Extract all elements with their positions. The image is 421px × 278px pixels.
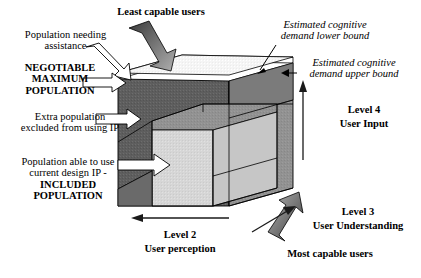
label-population-needing-assistance-line1: Population needing	[8, 29, 123, 40]
label-extra-population-excluded: Extra population excluded from using IP	[4, 111, 136, 134]
label-level4-sub: User Input	[318, 117, 410, 131]
label-upper-line2: demand upper bound	[288, 68, 420, 79]
label-least-capable-users: Least capable users	[86, 6, 236, 17]
label-able-line4: POPULATION	[4, 190, 132, 201]
label-lower-line2: demand lower bound	[257, 30, 393, 41]
label-level2: Level 2 User perception	[118, 228, 242, 255]
label-upper-line1: Estimated cognitive	[288, 57, 420, 68]
label-most-capable-users: Most capable users	[255, 248, 405, 259]
cube-inner-block	[152, 104, 277, 206]
label-negotiable-line2: MAXIMUM	[8, 73, 112, 84]
label-level2-title: Level 2	[118, 228, 242, 242]
label-level3-sub: User Understanding	[296, 219, 420, 233]
label-included-population: Population able to use current design IP…	[4, 156, 132, 201]
label-level2-sub: User perception	[118, 242, 242, 256]
diagram-canvas: Least capable users Population needing a…	[0, 0, 421, 278]
label-negotiable-line3: POPULATION	[8, 85, 112, 96]
label-level4-title: Level 4	[318, 103, 410, 117]
level2-axis-arrow	[131, 214, 229, 222]
label-level3: Level 3 User Understanding	[296, 205, 420, 232]
label-able-line3: INCLUDED	[4, 179, 132, 190]
label-negotiable-line1: NEGOTIABLE	[8, 62, 112, 73]
label-population-needing-assistance: Population needing assistance	[8, 29, 123, 52]
label-negotiable-maximum-population: NEGOTIABLE MAXIMUM POPULATION	[8, 62, 112, 96]
label-able-line1: Population able to use	[4, 156, 132, 167]
level4-axis-arrow	[299, 80, 307, 160]
label-lower-line1: Estimated cognitive	[257, 19, 393, 30]
label-population-needing-assistance-line2: assistance	[8, 40, 123, 51]
label-extra-line2: excluded from using IP	[4, 122, 136, 133]
label-level3-title: Level 3	[296, 205, 420, 219]
label-estimated-upper-bound: Estimated cognitive demand upper bound	[288, 57, 420, 80]
label-estimated-lower-bound: Estimated cognitive demand lower bound	[257, 19, 393, 42]
label-level4: Level 4 User Input	[318, 103, 410, 130]
label-extra-line1: Extra population	[4, 111, 136, 122]
label-able-line2: current design IP -	[4, 167, 132, 178]
